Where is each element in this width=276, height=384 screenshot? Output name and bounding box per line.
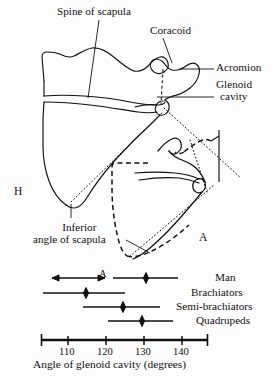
ape-glenoid-axis-dotted [128,112,247,258]
ape-vertebral-border [211,130,219,182]
chart-row-brachiators [43,288,125,299]
human-glenoid-plane-dashed [161,69,163,104]
chart-series-label-brachiators: Brachiators [191,286,243,298]
x-axis-title: Angle of glenoid cavity (degrees) [33,358,186,370]
semi-brachiators-mean-marker [120,302,125,313]
leader-lines [71,20,214,253]
marker-human: H [14,185,22,197]
x-tick-label-110: 110 [59,346,75,357]
x-tick-label-130: 130 [135,346,151,357]
leader-spine-of-scapula [88,20,99,98]
chart-series-label-semi-brachiators: Semi-brachiators [176,300,252,312]
ape-scapula-outline-dashed [112,140,211,257]
human-glenoid-axis-dotted [70,113,162,203]
human-long-axis-dotted [164,108,241,178]
chart-row-quadrupeds [108,316,173,327]
chart-series-label-man: Man [215,271,236,283]
scapula-comparison-figure [0,0,276,384]
label-inferior-angle-line1: Inferior [53,222,106,234]
leader-coracoid [163,38,172,63]
chart-annotation-a: A [99,268,107,279]
label-inferior-angle-of-scapula: Inferior angle of scapula [33,222,106,246]
quadrupeds-mean-marker [139,316,144,327]
brachiators-mean-marker [83,288,88,299]
label-inferior-angle-line2: angle of scapula [33,234,106,246]
label-spine-of-scapula: Spine of scapula [57,6,131,18]
label-glenoid-cavity-line1: Glenoid [216,79,252,91]
marker-ape: A [199,231,207,243]
man-segment-a-arrow-left [52,275,59,281]
chart-x-axis [41,334,208,346]
man-mean-marker [143,273,148,284]
label-glenoid-cavity: Glenoid cavity [216,79,252,103]
chart-series-label-quadrupeds: Quadrupeds [196,314,250,326]
x-tick-label-140: 140 [173,346,189,357]
label-glenoid-cavity-line2: cavity [220,91,252,103]
label-coracoid: Coracoid [150,25,191,37]
chart-row-semi-brachiators [83,302,160,313]
label-acromion: Acromion [216,62,261,74]
human-scapula-outline [42,48,199,208]
chart-row-man [52,273,178,284]
x-tick-label-120: 120 [97,346,113,357]
